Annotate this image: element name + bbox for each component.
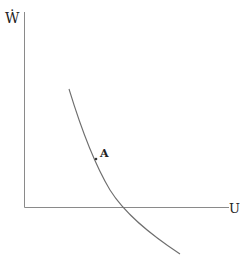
x-axis-label: U bbox=[229, 201, 240, 216]
curve bbox=[69, 89, 180, 254]
y-axis-label: Ẇ bbox=[5, 9, 20, 26]
point-a-marker bbox=[95, 158, 98, 161]
point-a-label: A bbox=[99, 147, 109, 160]
diagram-canvas: Ẇ U A bbox=[0, 0, 248, 260]
